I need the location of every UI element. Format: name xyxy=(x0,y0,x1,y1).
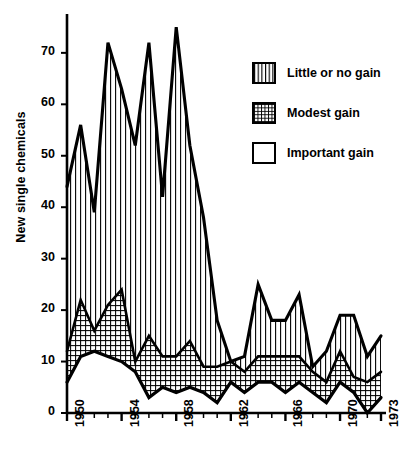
y-axis-tick-label: 60 xyxy=(25,95,55,109)
x-axis-tick-label: 1973 xyxy=(387,399,401,427)
legend-swatch-crosshatch-icon xyxy=(252,102,276,124)
x-axis-tick-label: 1962 xyxy=(237,399,251,427)
y-axis-tick-label: 10 xyxy=(25,353,55,367)
y-axis-tick-label: 50 xyxy=(25,147,55,161)
legend-swatch-vertical-lines-icon xyxy=(252,62,276,84)
legend-item-modest-gain: Modest gain xyxy=(252,100,381,126)
legend-label: Important gain xyxy=(287,146,374,160)
x-axis-tick-label: 1966 xyxy=(291,399,305,427)
x-axis-tick-label: 1950 xyxy=(73,399,87,427)
y-axis-tick-label: 70 xyxy=(25,44,55,58)
x-axis-tick-label: 1958 xyxy=(182,399,196,427)
chart-legend: Little or no gain Modest gain Important … xyxy=(252,60,381,180)
y-axis-tick-label: 40 xyxy=(25,198,55,212)
legend-item-little-or-no-gain: Little or no gain xyxy=(252,60,381,86)
y-axis-tick-label: 0 xyxy=(25,404,55,418)
x-axis-tick-label: 1954 xyxy=(128,399,142,427)
legend-item-important-gain: Important gain xyxy=(252,140,381,166)
y-axis-tick-label: 20 xyxy=(25,301,55,315)
y-axis-tick-label: 30 xyxy=(25,250,55,264)
x-axis-tick-label: 1970 xyxy=(346,399,360,427)
legend-label: Modest gain xyxy=(287,106,360,120)
legend-label: Little or no gain xyxy=(287,66,381,80)
y-axis-label: New single chemicals xyxy=(14,92,28,262)
legend-swatch-blank-icon xyxy=(252,142,276,164)
